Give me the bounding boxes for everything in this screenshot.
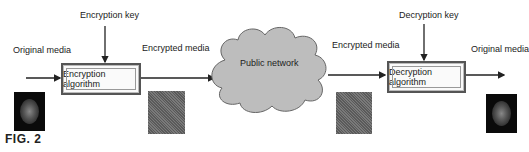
encrypted-noise-image (148, 91, 185, 134)
figure-caption: FIG. 2 (5, 132, 41, 146)
original-brain-image (14, 92, 45, 131)
encryption-key-label: Encryption key (80, 10, 139, 20)
original-media-label: Original media (13, 45, 71, 55)
decryption-algorithm-box: Decryption algorithm (387, 61, 466, 93)
encrypted-noise-image-right (336, 92, 372, 134)
encrypted-media-label: Encrypted media (142, 43, 210, 53)
original-media-label-right: Original media (471, 44, 529, 54)
decrypted-brain-image (486, 94, 517, 133)
encrypted-media-label-right: Encrypted media (332, 40, 400, 50)
decryption-key-label: Decryption key (399, 10, 459, 20)
encryption-algorithm-box: Encryption algorithm (61, 63, 141, 95)
public-network-label: Public network (240, 58, 299, 68)
cloud-icon (212, 27, 326, 112)
